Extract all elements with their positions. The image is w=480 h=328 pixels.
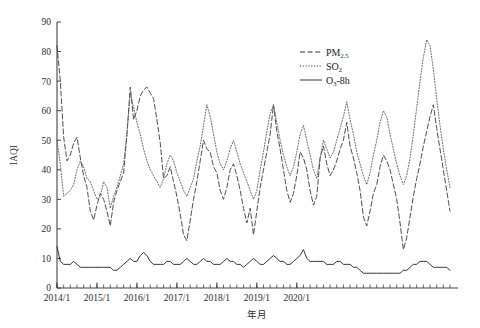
y-tick-label: 30	[42, 195, 52, 205]
legend-label-o3-8h: O3-8h	[326, 75, 350, 88]
y-tick-label: 70	[42, 77, 52, 87]
x-tick-label: 2017/1	[164, 293, 191, 303]
y-tick-label: 10	[42, 254, 52, 264]
x-tick-label: 2018/1	[204, 293, 231, 303]
x-tick-label: 2014/1	[44, 293, 71, 303]
y-axis-title: IAQI	[9, 145, 19, 165]
y-tick-label: 60	[42, 106, 52, 116]
y-tick-label: 90	[42, 17, 52, 27]
y-tick-label: 20	[42, 224, 52, 234]
y-tick-label: 0	[46, 283, 51, 293]
x-tick-label: 2020/1	[284, 293, 311, 303]
y-tick-label: 80	[42, 47, 52, 57]
iaqi-time-series-chart: 0102030405060708090 2014/12015/12016/120…	[0, 0, 480, 328]
y-tick-label: 40	[42, 165, 52, 175]
x-tick-label: 2016/1	[124, 293, 151, 303]
x-tick-label: 2019/1	[244, 293, 271, 303]
y-tick-label: 50	[42, 136, 52, 146]
x-axis-title: 年月	[247, 309, 267, 320]
x-tick-label: 2015/1	[84, 293, 111, 303]
chart-container: 0102030405060708090 2014/12015/12016/120…	[0, 0, 480, 328]
